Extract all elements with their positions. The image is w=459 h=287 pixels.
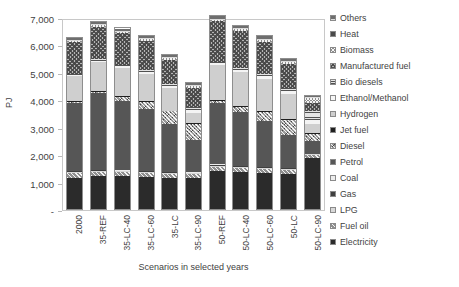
bar-segment xyxy=(281,135,296,168)
bar-segment xyxy=(305,103,320,111)
x-tick: 50-LC-90 xyxy=(305,213,322,259)
bar-segment xyxy=(233,172,248,209)
bar[interactable] xyxy=(66,37,83,210)
legend-item[interactable]: Petrol xyxy=(330,154,456,170)
bar-segment xyxy=(305,134,320,141)
bar-segment xyxy=(281,174,296,209)
legend-label: Diesel xyxy=(340,141,364,151)
bar-segment xyxy=(233,31,248,68)
legend-item[interactable]: Electricity xyxy=(330,234,456,250)
bar-segment xyxy=(139,74,154,101)
x-tick-label: 50-LC-60 xyxy=(265,215,275,250)
legend-item[interactable]: LPG xyxy=(330,202,456,218)
legend-item[interactable]: Manufactured fuel xyxy=(330,58,456,74)
legend-swatch xyxy=(330,223,336,229)
bar-segment xyxy=(233,72,248,106)
bar-segment xyxy=(91,62,106,91)
x-tick: 35-LC xyxy=(161,213,178,259)
bar-segment xyxy=(210,21,225,61)
y-tick-label: 2,000 xyxy=(30,151,54,162)
legend-label: Others xyxy=(340,13,366,23)
bar-segment xyxy=(281,94,296,118)
bar-segment xyxy=(115,101,130,170)
bar[interactable] xyxy=(232,25,249,210)
legend-swatch xyxy=(330,239,336,245)
legend-label: Electricity xyxy=(340,237,378,247)
bar-segment xyxy=(233,112,248,166)
legend-label: Jet fuel xyxy=(340,125,368,135)
x-tick-label: 2000 xyxy=(74,215,84,234)
x-tick: 2000 xyxy=(65,213,82,259)
bar[interactable] xyxy=(161,54,178,210)
legend-label: LPG xyxy=(340,205,358,215)
bar-segment xyxy=(186,178,201,209)
legend-item[interactable]: Coal xyxy=(330,170,456,186)
x-tick-label: 35-REF xyxy=(98,215,108,244)
legend-label: Petrol xyxy=(340,157,363,167)
legend-swatch xyxy=(330,175,336,181)
x-tick: 35-LC-90 xyxy=(185,213,202,259)
legend-label: Ethanol/Methanol xyxy=(340,93,408,103)
bar-segment xyxy=(139,109,154,171)
bar[interactable] xyxy=(209,15,226,210)
x-axis-title: Scenarios in selected years xyxy=(62,262,325,272)
bar-segment xyxy=(91,27,106,59)
bar-segment xyxy=(257,42,272,74)
y-axis-ticks: -1,0002,0003,0004,0005,0006,0007,000 xyxy=(0,0,60,287)
bar-segment xyxy=(305,111,320,120)
y-tick-label: 5,000 xyxy=(30,68,54,79)
chart-legend: OthersHeatBiomassManufactured fuelBio di… xyxy=(330,10,456,250)
bar-segment xyxy=(91,93,106,170)
bar[interactable] xyxy=(304,95,321,210)
legend-swatch xyxy=(330,47,336,53)
bar-segment xyxy=(305,124,320,133)
legend-swatch xyxy=(330,159,336,165)
x-tick: 50-LC-60 xyxy=(257,213,274,259)
legend-item[interactable]: Fuel oil xyxy=(330,218,456,234)
bar-segment xyxy=(281,64,296,88)
bar-segment xyxy=(162,124,177,171)
bar-segment xyxy=(186,140,201,172)
legend-item[interactable]: Ethanol/Methanol xyxy=(330,90,456,106)
bar-segment xyxy=(162,111,177,124)
bar[interactable] xyxy=(90,21,107,210)
x-tick-label: 35-LC xyxy=(170,215,180,238)
legend-item[interactable]: Jet fuel xyxy=(330,122,456,138)
legend-item[interactable]: Diesel xyxy=(330,138,456,154)
x-tick: 50-LC xyxy=(281,213,298,259)
bar-segment xyxy=(210,103,225,165)
bar-segment xyxy=(257,173,272,209)
bar-segment xyxy=(186,124,201,141)
bar-segment xyxy=(91,176,106,209)
bar-segment xyxy=(186,88,201,107)
legend-label: Coal xyxy=(340,173,358,183)
legend-swatch xyxy=(330,207,336,213)
legend-item[interactable]: Biomass xyxy=(330,42,456,58)
bar-segment xyxy=(162,178,177,209)
legend-swatch xyxy=(330,143,336,149)
bar-segment xyxy=(67,178,82,209)
bar[interactable] xyxy=(280,58,297,210)
legend-item[interactable]: Gas xyxy=(330,186,456,202)
legend-swatch xyxy=(330,95,336,101)
legend-item[interactable]: Heat xyxy=(330,26,456,42)
bar[interactable] xyxy=(185,82,202,210)
bar-segment xyxy=(139,41,154,71)
x-tick-label: 35-LC-60 xyxy=(146,215,156,250)
x-tick-label: 50-LC xyxy=(289,215,299,238)
bar-segment xyxy=(257,79,272,111)
legend-item[interactable]: Hydrogen xyxy=(330,106,456,122)
legend-item[interactable]: Bio diesels xyxy=(330,74,456,90)
bar[interactable] xyxy=(114,27,131,210)
x-axis-ticks: 200035-REF35-LC-4035-LC-6035-LC35-LC-905… xyxy=(62,213,325,259)
bar[interactable] xyxy=(138,35,155,210)
bar-segment xyxy=(210,65,225,100)
bar-segment xyxy=(305,158,320,209)
x-tick-label: 50-REF xyxy=(217,215,227,244)
legend-item[interactable]: Others xyxy=(330,10,456,26)
bar-segment xyxy=(67,42,82,73)
bar-segment xyxy=(67,103,82,170)
legend-label: Hydrogen xyxy=(340,109,378,119)
bar-segment xyxy=(139,102,154,109)
bar[interactable] xyxy=(256,35,273,210)
